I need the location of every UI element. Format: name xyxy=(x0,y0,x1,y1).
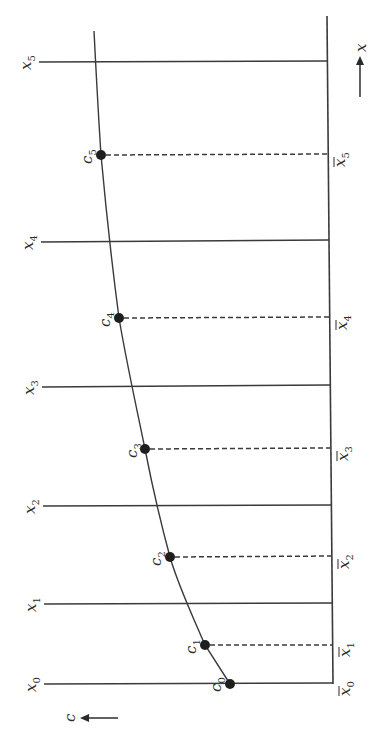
grid-line-x3 xyxy=(42,385,330,387)
label-c3: c3 xyxy=(123,443,143,458)
grid-line-x0 xyxy=(44,683,333,684)
grid-labels: x0 x1 x2 x3 x4 x5 xyxy=(17,55,42,692)
label-x1: x1 xyxy=(22,597,42,612)
xbar-labels: x0 x1 x2 x3 x4 x5 xyxy=(331,152,356,696)
projection-c3 xyxy=(150,448,330,449)
concentration-profile-diagram: x0 x1 x2 x3 x4 x5 c0 c1 c2 c3 c4 c5 x0 x… xyxy=(0,0,380,729)
grid-line-x2 xyxy=(43,505,331,506)
point-labels: c0 c1 c2 c3 c4 c5 xyxy=(78,149,227,692)
grid-line-x5 xyxy=(39,61,327,62)
grid-line-x4 xyxy=(41,240,329,242)
c-direction-arrow: c xyxy=(61,713,118,722)
concentration-curve xyxy=(94,31,230,684)
x-arrow-head-icon xyxy=(356,56,364,65)
label-c1: c1 xyxy=(182,639,202,654)
projection-c2 xyxy=(175,556,331,557)
label-x0: x0 xyxy=(22,677,42,692)
baseline-axis xyxy=(327,16,333,684)
projection-lines xyxy=(106,154,332,645)
c-arrow-label: c xyxy=(61,713,79,722)
x-arrow-label: x xyxy=(352,43,370,52)
x-direction-arrow: x xyxy=(352,43,370,97)
label-x2: x2 xyxy=(21,499,41,514)
label-x5: x5 xyxy=(17,55,37,70)
label-c0: c0 xyxy=(207,677,227,692)
c-arrow-head-icon xyxy=(80,714,89,722)
label-c2: c2 xyxy=(147,551,167,566)
projection-c4 xyxy=(124,317,329,318)
label-x4: x4 xyxy=(19,235,39,250)
data-points xyxy=(96,150,235,689)
label-c4: c4 xyxy=(96,312,116,327)
label-c5: c5 xyxy=(78,149,98,164)
projection-c5 xyxy=(106,154,327,155)
label-x3: x3 xyxy=(20,380,40,395)
